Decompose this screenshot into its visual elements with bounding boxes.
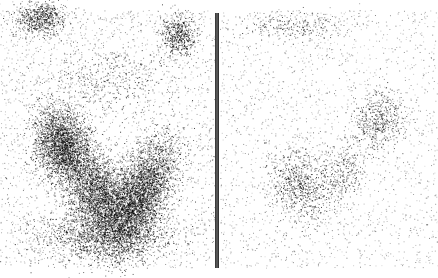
left-scan-image bbox=[0, 0, 215, 278]
scan-panel-left bbox=[0, 0, 215, 278]
panel-divider bbox=[215, 13, 219, 268]
right-scan-image bbox=[220, 0, 438, 278]
scan-panel-right bbox=[220, 0, 438, 278]
